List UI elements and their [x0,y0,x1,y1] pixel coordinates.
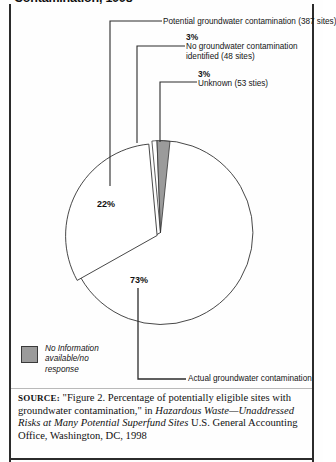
legend: No Information available/no response [21,344,99,375]
source-label: SOURCE: [18,393,60,403]
callout-potential-label: Potential groundwater contamination (387… [163,17,336,27]
callout-actual-label: Actual groundwater contamination [188,374,312,384]
callout-none-percent: 3% [186,32,298,42]
leader-actual [138,288,186,379]
source-in-word: in [144,405,152,416]
frame-left-rule [9,4,11,462]
callout-unknown-label: Unknown (53 sties) [198,79,268,89]
slice-value-actual: 73% [130,275,148,285]
page-title: Contamination, 1998 [14,0,304,5]
source-divider [11,388,312,389]
callout-actual: Actual groundwater contamination [188,374,312,384]
slice-value-potential: 22% [97,199,115,209]
callout-unknown: 3% Unknown (53 sties) [198,69,268,89]
callout-none-identified: 3% No groundwater contamination identifi… [186,32,298,63]
frame-bottom-rule [9,458,314,460]
callout-potential: Potential groundwater contamination (387… [163,17,336,27]
legend-label-no-information: No Information available/no response [45,344,99,375]
pie-slice-potential [66,144,158,280]
legend-label-line1: No Information [45,344,99,353]
legend-swatch-no-information [21,346,38,363]
source-note: SOURCE: "Figure 2. Percentage of potenti… [18,392,308,442]
callout-unknown-percent: 3% [198,69,268,79]
callout-none-line2: identified (48 sites) [186,52,298,62]
leader-none-identified [137,46,185,143]
callout-none-line1: No groundwater contamination [186,42,298,52]
leader-unknown [160,82,197,142]
pie-slice-actual [81,140,253,324]
frame-right-rule [312,4,314,462]
legend-label-line2: available/no [45,354,89,363]
pie-slice-none-identified [152,141,161,233]
legend-label-line3: response [45,365,79,374]
pie-slice-unknown [157,141,170,233]
leader-potential [110,21,162,186]
